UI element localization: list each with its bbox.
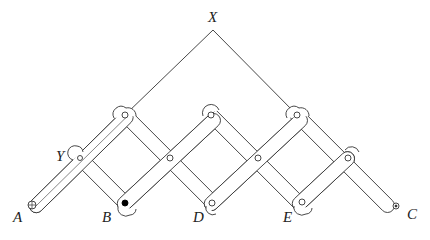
pivot-top1 xyxy=(122,112,128,118)
joint-bump-e xyxy=(294,206,312,215)
string-right xyxy=(213,30,297,115)
pivot-mid2 xyxy=(255,155,261,161)
label-y: Y xyxy=(56,149,64,164)
label-d: D xyxy=(193,210,204,225)
joint-bump-right xyxy=(345,147,359,152)
pivot-mid3 xyxy=(345,155,351,161)
pivot-mid1 xyxy=(167,155,173,161)
pivot-top3 xyxy=(294,112,300,118)
joint-bump-b xyxy=(118,207,136,216)
pantograph-diagram xyxy=(0,0,430,240)
label-e: E xyxy=(283,210,292,225)
pivot-y xyxy=(78,156,83,161)
label-x: X xyxy=(208,10,217,25)
tracer-point-c-icon xyxy=(393,203,399,209)
pen-point-b-icon xyxy=(122,200,128,206)
pivot-e xyxy=(299,199,305,205)
pivot-top2 xyxy=(208,112,214,118)
pivot-d xyxy=(209,200,215,206)
fixed-pivot-a-icon xyxy=(28,201,36,209)
label-c: C xyxy=(407,207,417,222)
label-a: A xyxy=(13,210,22,225)
label-b: B xyxy=(102,210,111,225)
string-left xyxy=(125,30,213,115)
